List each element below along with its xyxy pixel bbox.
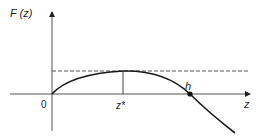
function-curve bbox=[52, 71, 235, 133]
function-diagram: F (z) 0 z* h z bbox=[0, 0, 259, 139]
origin-label: 0 bbox=[41, 99, 47, 110]
y-axis-label: F (z) bbox=[10, 7, 33, 19]
root-point bbox=[187, 91, 192, 96]
peak-label: z* bbox=[115, 100, 126, 111]
root-label: h bbox=[185, 80, 191, 92]
x-axis-label: z bbox=[243, 98, 250, 110]
